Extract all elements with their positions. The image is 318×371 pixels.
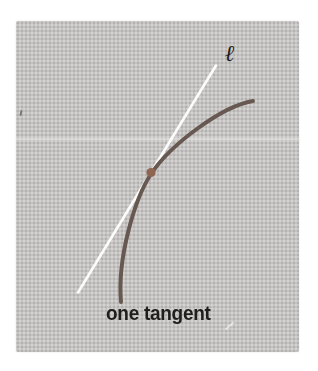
scanned-page: ℓ one tangent bbox=[0, 0, 318, 371]
scan-streak bbox=[16, 138, 299, 140]
line-label: ℓ bbox=[225, 41, 235, 64]
figure-caption: one tangent bbox=[106, 302, 211, 324]
